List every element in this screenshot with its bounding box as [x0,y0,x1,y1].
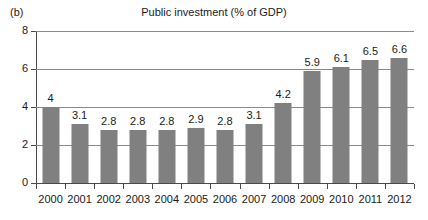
x-axis-label-2000: 2000 [38,192,62,206]
bar-slot: 2.8 [94,31,123,183]
bar-2002[interactable] [100,130,117,183]
x-tick [36,184,37,189]
bar-slot: 4.2 [269,31,298,183]
x-tick [356,184,357,189]
x-axis-label-2010: 2010 [329,192,353,206]
bar-2012[interactable] [391,58,408,183]
x-axis-label-2009: 2009 [300,192,324,206]
bar-value-label-2004: 2.8 [159,115,174,127]
bar-value-label-2009: 5.9 [305,56,320,68]
bar-slot: 6.6 [385,31,414,183]
x-tick [240,184,241,189]
bar-2007[interactable] [246,124,263,183]
x-axis-label-2005: 2005 [184,192,208,206]
bar-value-label-2001: 3.1 [72,109,87,121]
bar-slot: 6.1 [327,31,356,183]
bar-slot: 5.9 [298,31,327,183]
bar-2006[interactable] [216,130,233,183]
x-axis-label-2001: 2001 [67,192,91,206]
bar-value-label-2010: 6.1 [334,52,349,64]
bar-value-label-2000: 4 [47,92,53,104]
x-tick [269,184,270,189]
y-axis-label-2: 2 [8,139,28,150]
bar-slot: 2.9 [181,31,210,183]
x-tick [181,184,182,189]
bar-value-label-2003: 2.8 [130,115,145,127]
bar-slot: 6.5 [356,31,385,183]
y-axis-label-4: 4 [8,101,28,112]
x-axis-label-2002: 2002 [96,192,120,206]
x-tick [210,184,211,189]
x-tick [327,184,328,189]
x-axis-label-2007: 2007 [242,192,266,206]
x-tick [152,184,153,189]
x-axis-label-2003: 2003 [126,192,150,206]
chart-figure: (b) Public investment (% of GDP) 02468 4… [0,0,428,220]
bar-value-label-2005: 2.9 [188,113,203,125]
x-tick [65,184,66,189]
bar-2001[interactable] [71,124,88,183]
chart-title: Public investment (% of GDP) [0,6,428,19]
x-tick [123,184,124,189]
x-axis-labels-group: 2000200120022003200420052006200720082009… [36,192,414,208]
bar-2009[interactable] [304,71,321,183]
y-axis-label-0: 0 [8,177,28,188]
bar-2010[interactable] [333,67,350,183]
bars-group: 43.12.82.82.82.92.83.14.25.96.16.56.6 [36,31,414,183]
x-tick [385,184,386,189]
bar-2005[interactable] [187,128,204,183]
bar-value-label-2011: 6.5 [363,45,378,57]
bar-value-label-2008: 4.2 [275,88,290,100]
bar-slot: 2.8 [152,31,181,183]
bar-2003[interactable] [129,130,146,183]
bar-2000[interactable] [42,107,59,183]
bar-value-label-2006: 2.8 [217,115,232,127]
x-axis-label-2004: 2004 [155,192,179,206]
bar-value-label-2002: 2.8 [101,115,116,127]
x-axis-label-2008: 2008 [271,192,295,206]
bar-2011[interactable] [362,60,379,184]
x-axis-ticks-group [36,184,414,189]
bar-slot: 4 [36,31,65,183]
x-tick [298,184,299,189]
bar-slot: 3.1 [240,31,269,183]
y-axis-label-6: 6 [8,63,28,74]
bar-value-label-2012: 6.6 [392,43,407,55]
x-axis-label-2012: 2012 [387,192,411,206]
bar-slot: 2.8 [123,31,152,183]
bar-slot: 3.1 [65,31,94,183]
y-axis-label-8: 8 [8,25,28,36]
x-tick [94,184,95,189]
bar-2004[interactable] [158,130,175,183]
bar-value-label-2007: 3.1 [246,109,261,121]
x-axis-label-2011: 2011 [359,192,383,206]
bar-2008[interactable] [275,103,292,183]
x-axis-label-2006: 2006 [213,192,237,206]
bar-slot: 2.8 [210,31,239,183]
x-tick [414,184,415,189]
